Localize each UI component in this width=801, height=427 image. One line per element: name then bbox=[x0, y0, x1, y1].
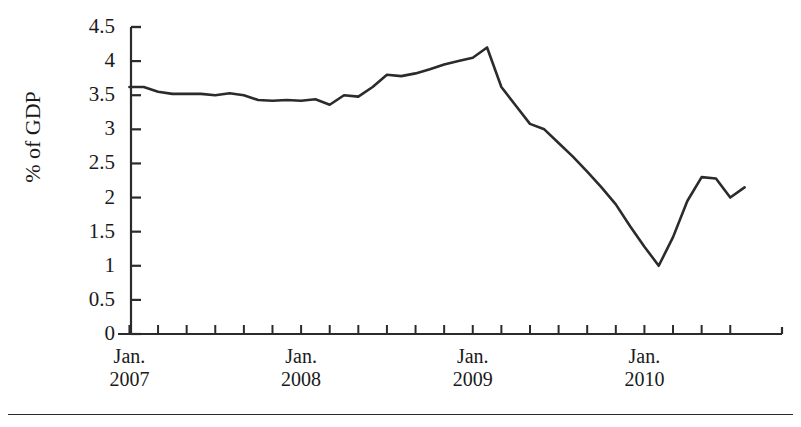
x-tick-label-month: Jan. bbox=[418, 345, 528, 368]
y-tick-label: 0 bbox=[55, 323, 115, 344]
x-tick-label: Jan.2010 bbox=[589, 345, 699, 391]
y-tick-label: 4.5 bbox=[55, 16, 115, 37]
y-tick-label: 3 bbox=[55, 118, 115, 139]
x-tick-label-year: 2010 bbox=[589, 368, 699, 391]
y-tick-label: 0.5 bbox=[55, 289, 115, 310]
x-tick-label-year: 2008 bbox=[246, 368, 356, 391]
y-tick-label: 1 bbox=[55, 255, 115, 276]
x-tick-label: Jan.2009 bbox=[418, 345, 528, 391]
x-tick-label-month: Jan. bbox=[246, 345, 356, 368]
data-series-line bbox=[129, 47, 744, 265]
axis-lines bbox=[118, 27, 782, 334]
y-tick-label: 4 bbox=[55, 50, 115, 71]
chart-figure: % of GDP 4.543.532.521.510.50 Jan.2007Ja… bbox=[0, 0, 801, 427]
y-tick-label: 2.5 bbox=[55, 152, 115, 173]
y-tick-label: 3.5 bbox=[55, 84, 115, 105]
x-tick-label: Jan.2007 bbox=[74, 345, 184, 391]
footer-divider bbox=[8, 414, 793, 415]
y-tick-label: 2 bbox=[55, 187, 115, 208]
x-tick-label-year: 2009 bbox=[418, 368, 528, 391]
x-tick-label-year: 2007 bbox=[74, 368, 184, 391]
y-tick-marks bbox=[131, 27, 141, 334]
x-tick-label-month: Jan. bbox=[74, 345, 184, 368]
x-tick-marks bbox=[129, 325, 730, 334]
x-tick-label: Jan.2008 bbox=[246, 345, 356, 391]
x-tick-label-month: Jan. bbox=[589, 345, 699, 368]
y-tick-label: 1.5 bbox=[55, 221, 115, 242]
